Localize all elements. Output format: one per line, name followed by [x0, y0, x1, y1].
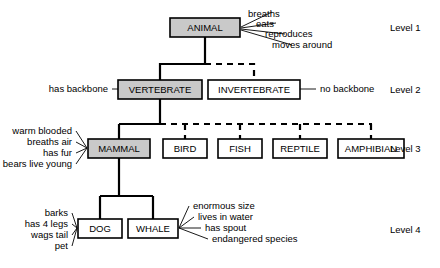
attrs-whale: enormous size lives in water has spout e… — [193, 200, 298, 244]
node-reptile[interactable]: REPTILE — [273, 139, 327, 158]
node-fish-label: FISH — [229, 143, 251, 154]
leaders-dog-attrs — [72, 213, 77, 246]
attrs-invertebrate: no backbone — [320, 83, 374, 94]
leaders-mammal-attrs — [76, 131, 87, 164]
node-animal[interactable]: ANIMAL — [170, 18, 240, 37]
attr-animal-moves-around: moves around — [272, 39, 332, 50]
node-whale-label: WHALE — [136, 223, 170, 234]
connectors-level2-to-level3 — [119, 99, 372, 139]
attr-breaths-air: breaths air — [27, 136, 72, 147]
attr-wags-tail: wags tail — [30, 229, 68, 240]
classification-diagram: ANIMAL VERTEBRATE INVERTEBRATE MAMMAL BI… — [0, 0, 440, 268]
node-animal-label: ANIMAL — [187, 22, 222, 33]
node-bird-label: BIRD — [174, 143, 197, 154]
attrs-mammal: warm blooded breaths air has fur bears l… — [3, 125, 72, 169]
level-labels: Level 1 Level 2 Level 3 Level 4 — [390, 22, 421, 235]
node-mammal[interactable]: MAMMAL — [88, 139, 150, 158]
node-reptile-label: REPTILE — [280, 143, 320, 154]
attrs-vertebrate: has backbone — [49, 83, 108, 94]
level-label-3: Level 3 — [390, 143, 421, 154]
attr-no-backbone: no backbone — [320, 83, 374, 94]
attr-has-spout: has spout — [205, 222, 247, 233]
node-vertebrate-label: VERTEBRATE — [129, 84, 191, 95]
level-label-4: Level 4 — [390, 224, 421, 235]
leader-endangered-species — [179, 228, 208, 239]
node-dog[interactable]: DOG — [78, 219, 122, 238]
attr-bears-live-young: bears live young — [3, 158, 72, 169]
node-dog-label: DOG — [89, 223, 111, 234]
node-vertebrate[interactable]: VERTEBRATE — [118, 80, 202, 99]
level-label-1: Level 1 — [390, 22, 421, 33]
attr-has-fur: has fur — [43, 147, 72, 158]
node-fish[interactable]: FISH — [218, 139, 262, 158]
attr-lives-in-water: lives in water — [198, 211, 253, 222]
attr-barks: barks — [45, 207, 68, 218]
attr-warm-blooded: warm blooded — [11, 125, 72, 136]
node-invertebrate[interactable]: INVERTEBRATE — [208, 80, 300, 99]
leader-pet — [72, 228, 77, 246]
attr-pet: pet — [55, 240, 69, 251]
attr-endangered-species: endangered species — [212, 233, 298, 244]
connectors-level3-to-level4 — [100, 158, 153, 219]
connector-animal-to-invertebrate — [205, 64, 254, 80]
node-mammal-label: MAMMAL — [98, 143, 140, 154]
node-whale[interactable]: WHALE — [128, 219, 178, 238]
connectors-level1-to-level2 — [160, 37, 254, 80]
node-invertebrate-label: INVERTEBRATE — [218, 84, 290, 95]
node-bird[interactable]: BIRD — [163, 139, 207, 158]
attrs-animal: breaths eats reproduces moves around — [248, 8, 332, 50]
level-label-2: Level 2 — [390, 84, 421, 95]
attr-enormous-size: enormous size — [193, 200, 255, 211]
attrs-dog: barks has 4 legs wags tail pet — [25, 207, 69, 251]
attr-has-backbone: has backbone — [49, 83, 108, 94]
connector-animal-to-vertebrate — [160, 64, 205, 80]
attr-has-4-legs: has 4 legs — [25, 218, 69, 229]
diagram-canvas: ANIMAL VERTEBRATE INVERTEBRATE MAMMAL BI… — [0, 0, 440, 268]
attr-animal-reproduces: reproduces — [265, 28, 313, 39]
